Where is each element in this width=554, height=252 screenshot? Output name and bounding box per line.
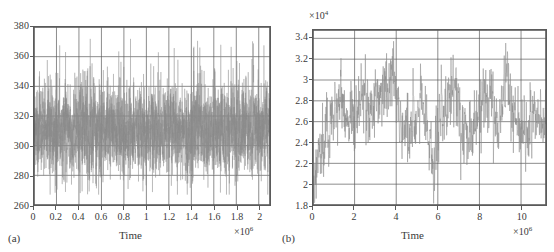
y-tick-label: 2.4 [278, 138, 308, 148]
x-tick-mark [214, 206, 215, 210]
x-tick-mark [146, 206, 147, 210]
plot-area-b [312, 29, 547, 206]
x-tick-label: 8 [477, 212, 482, 222]
y-tick: 3.4 [278, 32, 308, 42]
y-tick-mark [309, 121, 313, 122]
x-tick-mark [437, 206, 438, 210]
plot-canvas-b [313, 30, 546, 205]
plot-canvas-a [34, 27, 270, 205]
y-tick: 1.8 [278, 201, 308, 211]
panel-label-b: (b) [282, 233, 295, 244]
x-tick-mark [123, 206, 124, 210]
x-axis-exponent-a: ×106 [234, 226, 253, 237]
y-tick-mark [309, 184, 313, 185]
x-tick-mark [353, 206, 354, 210]
y-tick-label: 2.6 [278, 117, 308, 127]
x-tick-mark [169, 206, 170, 210]
y-tick: 320 [0, 111, 29, 121]
y-tick-mark [309, 142, 313, 143]
y-tick-mark [30, 116, 34, 117]
x-axis-exponent-b: ×106 [513, 226, 532, 237]
x-exponent-value-a: 6 [250, 225, 254, 233]
x-tick-mark [479, 206, 480, 210]
y-tick-mark [30, 26, 34, 27]
y-tick-mark [309, 163, 313, 164]
y-tick-mark [309, 100, 313, 101]
x-tick-label: 6 [435, 212, 440, 222]
y-tick-label: 3.2 [278, 54, 308, 64]
x-tick-label: 1.6 [208, 212, 221, 222]
y-tick: 300 [0, 141, 29, 151]
x-tick-mark [259, 206, 260, 210]
y-tick-label: 300 [0, 141, 29, 151]
y-tick: 3 [278, 75, 308, 85]
x-tick-mark [101, 206, 102, 210]
x-tick-label: 0.2 [49, 212, 62, 222]
x-exponent-prefix-a: ×10 [234, 226, 250, 237]
y-tick: 280 [0, 171, 29, 181]
y-tick: 2.2 [278, 159, 308, 169]
y-tick-label: 380 [0, 21, 29, 31]
y-tick-mark [30, 176, 34, 177]
x-tick-mark [395, 206, 396, 210]
panel-a: 260280300320340360380 00.20.40.60.811.21… [0, 0, 277, 252]
y-tick: 2 [278, 180, 308, 190]
data-trace [313, 41, 546, 203]
y-tick: 2.8 [278, 96, 308, 106]
x-tick-label: 0 [310, 212, 315, 222]
figure-container: 260280300320340360380 00.20.40.60.811.21… [0, 0, 554, 252]
y-tick-mark [309, 58, 313, 59]
y-tick-label: 260 [0, 201, 29, 211]
x-tick-label: 0.6 [95, 212, 108, 222]
y-tick-label: 340 [0, 81, 29, 91]
y-tick-mark [30, 146, 34, 147]
x-tick-mark [55, 206, 56, 210]
x-tick-mark [33, 206, 34, 210]
x-tick-label: 0.8 [117, 212, 130, 222]
x-exponent-value-b: 6 [529, 225, 533, 233]
panel-b: 1.822.22.42.62.833.23.4 0246810 Time ×10… [277, 0, 554, 252]
y-tick-label: 3.4 [278, 32, 308, 42]
y-tick-label: 360 [0, 51, 29, 61]
y-tick-mark [30, 86, 34, 87]
y-exponent-value-b: 4 [325, 9, 329, 17]
y-tick: 2.6 [278, 117, 308, 127]
panel-label-a: (a) [8, 233, 20, 244]
y-tick: 2.4 [278, 138, 308, 148]
x-tick-label: 1.4 [185, 212, 198, 222]
x-tick-label: 2 [257, 212, 262, 222]
x-axis-title-b: Time [401, 230, 424, 241]
y-tick-mark [309, 79, 313, 80]
y-tick: 260 [0, 201, 29, 211]
x-tick-label: 4 [393, 212, 398, 222]
y-tick-mark [30, 56, 34, 57]
y-tick-label: 3 [278, 75, 308, 85]
y-tick-mark [309, 37, 313, 38]
y-tick-label: 320 [0, 111, 29, 121]
x-tick-label: 0.4 [72, 212, 85, 222]
x-tick-label: 2 [351, 212, 356, 222]
y-tick-label: 280 [0, 171, 29, 181]
y-tick: 3.2 [278, 54, 308, 64]
x-tick-label: 0 [31, 212, 36, 222]
x-tick-mark [78, 206, 79, 210]
x-tick-label: 1 [144, 212, 149, 222]
y-exponent-prefix-b: ×10 [309, 10, 325, 21]
x-tick-mark [191, 206, 192, 210]
y-tick: 340 [0, 81, 29, 91]
y-tick-label: 2.2 [278, 159, 308, 169]
x-tick-mark [312, 206, 313, 210]
y-tick-label: 2 [278, 180, 308, 190]
y-axis-exponent-b: ×104 [309, 10, 328, 21]
x-tick-label: 10 [517, 212, 527, 222]
plot-area-a [33, 26, 271, 206]
data-trace [34, 39, 270, 195]
x-exponent-prefix-b: ×10 [513, 226, 529, 237]
y-tick: 380 [0, 21, 29, 31]
x-axis-title-a: Time [119, 230, 142, 241]
y-tick-label: 2.8 [278, 96, 308, 106]
x-tick-label: 1.2 [163, 212, 176, 222]
x-tick-mark [521, 206, 522, 210]
x-tick-label: 1.8 [231, 212, 244, 222]
y-tick: 360 [0, 51, 29, 61]
